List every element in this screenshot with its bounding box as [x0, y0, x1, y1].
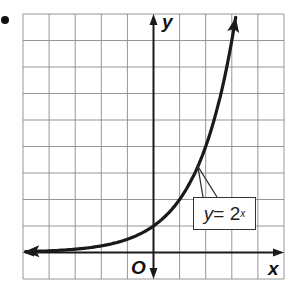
equation-base: = 2: [213, 203, 240, 225]
equation-exponent: x: [240, 208, 245, 219]
y-axis-label: y: [162, 11, 173, 33]
origin-label: O: [131, 257, 146, 279]
x-axis-label: x: [268, 258, 279, 280]
equation-variable: y: [204, 203, 214, 225]
equation-label: y = 2x: [193, 197, 256, 230]
exponential-graph: [0, 0, 290, 287]
